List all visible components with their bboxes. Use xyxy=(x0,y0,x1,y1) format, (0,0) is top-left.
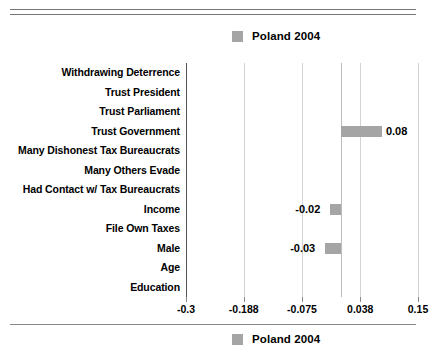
data-bar xyxy=(341,126,382,137)
legend-bottom: Poland 2004 xyxy=(232,333,320,345)
top-double-rule xyxy=(10,9,416,15)
category-label: Many Others Evade xyxy=(0,161,180,181)
bar-value-label: 0.08 xyxy=(386,122,407,142)
category-label: Education xyxy=(0,278,180,298)
chart-row: Many Others Evade xyxy=(0,161,418,181)
data-bar xyxy=(325,243,340,254)
bottom-rule xyxy=(10,324,416,325)
category-label: Had Contact w/ Tax Bureaucrats xyxy=(0,180,180,200)
chart-row: Income-0.02 xyxy=(0,200,418,220)
category-label: Male xyxy=(0,239,180,259)
chart-row: Trust Parliament xyxy=(0,102,418,122)
x-tick xyxy=(244,297,245,302)
x-tick xyxy=(302,297,303,302)
category-label: Trust President xyxy=(0,83,180,103)
chart-row: Withdrawing Deterrence xyxy=(0,63,418,83)
category-label: Many Dishonest Tax Bureaucrats xyxy=(0,141,180,161)
x-tick-label: -0.188 xyxy=(214,303,274,315)
x-tick xyxy=(360,297,361,302)
x-tick xyxy=(418,297,419,302)
category-label: Age xyxy=(0,258,180,278)
x-tick xyxy=(186,297,187,302)
legend-swatch-icon xyxy=(232,334,243,345)
chart-row: File Own Taxes xyxy=(0,219,418,239)
x-tick-label: -0.075 xyxy=(272,303,332,315)
category-label: Trust Government xyxy=(0,122,180,142)
x-tick-label: 0.15 xyxy=(388,303,433,315)
data-bar xyxy=(330,204,340,215)
legend-swatch-icon xyxy=(232,31,243,42)
legend-top: Poland 2004 xyxy=(232,30,320,42)
chart-row: Many Dishonest Tax Bureaucrats xyxy=(0,141,418,161)
bar-value-label: -0.03 xyxy=(290,239,315,259)
legend-label: Poland 2004 xyxy=(252,30,320,42)
chart-row: Trust President xyxy=(0,83,418,103)
category-label: File Own Taxes xyxy=(0,219,180,239)
x-tick-label: -0.3 xyxy=(156,303,216,315)
chart-row: Age xyxy=(0,258,418,278)
chart-row: Trust Government0.08 xyxy=(0,122,418,142)
bar-value-label: -0.02 xyxy=(295,200,320,220)
category-label: Trust Parliament xyxy=(0,102,180,122)
category-label: Withdrawing Deterrence xyxy=(0,63,180,83)
chart-plot-area: Withdrawing DeterrenceTrust PresidentTru… xyxy=(186,63,418,297)
chart-row: Had Contact w/ Tax Bureaucrats xyxy=(0,180,418,200)
chart-row: Education xyxy=(0,278,418,298)
category-label: Income xyxy=(0,200,180,220)
legend-label: Poland 2004 xyxy=(252,333,320,345)
gridline xyxy=(418,63,419,297)
x-tick-label: 0.038 xyxy=(330,303,390,315)
chart-row: Male-0.03 xyxy=(0,239,418,259)
